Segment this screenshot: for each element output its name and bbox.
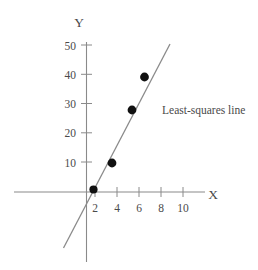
y-tick-label-40: 40 — [65, 69, 77, 81]
y-tick-label-10: 10 — [65, 157, 77, 169]
x-tick-label-4: 4 — [114, 202, 120, 214]
least-squares-line-label: Least-squares line — [162, 104, 245, 117]
x-tick-label-10: 10 — [177, 202, 189, 214]
y-tick-label-30: 30 — [65, 98, 77, 110]
data-point — [89, 185, 97, 193]
x-tick-label-6: 6 — [136, 202, 142, 214]
x-tick-label-8: 8 — [158, 202, 164, 214]
data-point — [140, 73, 149, 82]
data-point — [108, 159, 117, 168]
y-tick-label-50: 50 — [65, 40, 77, 52]
y-axis-title: Y — [74, 15, 84, 30]
x-tick-label-2: 2 — [92, 202, 98, 214]
data-point — [128, 106, 137, 115]
y-tick-label-20: 20 — [65, 127, 77, 139]
x-axis-title: X — [208, 187, 218, 202]
scatter-plot-figure: 50 40 30 20 10 2 4 6 8 10 Y X Least-squa… — [0, 0, 258, 270]
plot-canvas: 50 40 30 20 10 2 4 6 8 10 Y X Least-squa… — [0, 0, 258, 270]
least-squares-line — [64, 44, 171, 248]
